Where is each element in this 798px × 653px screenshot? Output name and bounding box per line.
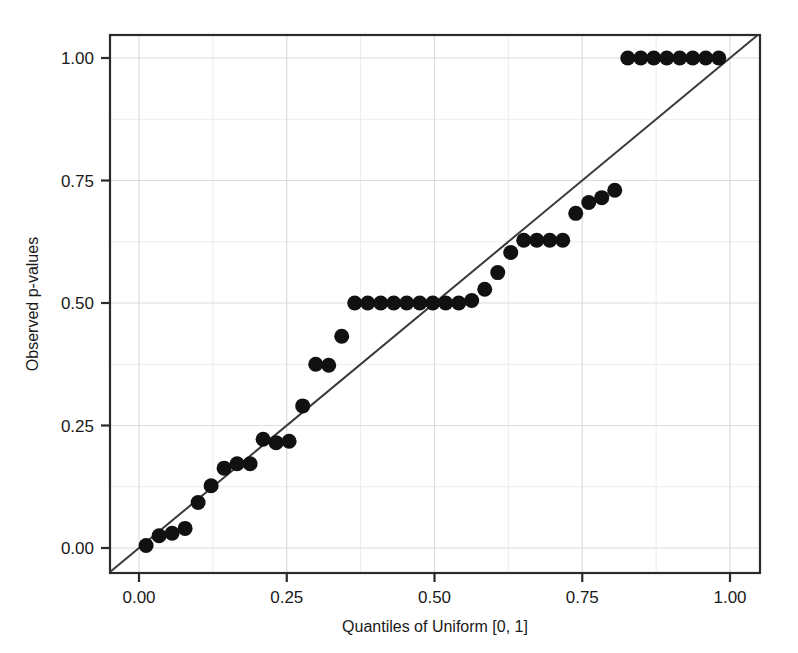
data-point — [282, 434, 297, 449]
data-point — [646, 51, 661, 66]
data-point — [594, 190, 609, 205]
data-point — [464, 293, 479, 308]
data-point — [204, 478, 219, 493]
data-point — [633, 51, 648, 66]
data-point — [360, 296, 375, 311]
data-point — [685, 51, 700, 66]
data-point — [321, 358, 336, 373]
data-point — [399, 296, 414, 311]
y-tick-label: 0.00 — [61, 539, 94, 558]
data-point — [230, 456, 245, 471]
data-point — [373, 296, 388, 311]
qq-plot-figure: 0.000.250.500.751.00 0.000.250.500.751.0… — [0, 0, 798, 653]
x-tick-label: 0.75 — [566, 588, 599, 607]
data-point — [139, 538, 154, 553]
data-point — [347, 296, 362, 311]
data-point — [269, 435, 284, 450]
y-axis-title: Observed p-values — [24, 237, 41, 371]
y-tick-label: 0.75 — [61, 172, 94, 191]
data-point — [490, 265, 505, 280]
data-point — [438, 296, 453, 311]
y-tick-label: 0.50 — [61, 294, 94, 313]
plot-canvas: 0.000.250.500.751.00 0.000.250.500.751.0… — [0, 0, 798, 653]
data-point — [568, 206, 583, 221]
data-point — [555, 233, 570, 248]
data-point — [672, 51, 687, 66]
data-point — [308, 357, 323, 372]
data-point — [217, 461, 232, 476]
data-point — [581, 195, 596, 210]
data-point — [243, 456, 258, 471]
data-point — [425, 296, 440, 311]
data-point — [516, 233, 531, 248]
x-axis-title: Quantiles of Uniform [0, 1] — [342, 618, 528, 635]
data-point — [334, 329, 349, 344]
data-point — [711, 51, 726, 66]
data-point — [178, 521, 193, 536]
x-tick-label: 1.00 — [713, 588, 746, 607]
data-point — [165, 526, 180, 541]
data-point — [295, 398, 310, 413]
data-point — [529, 233, 544, 248]
data-point — [256, 432, 271, 447]
data-point — [386, 296, 401, 311]
data-point — [698, 51, 713, 66]
figure-background — [0, 0, 798, 653]
x-tick-label: 0.00 — [122, 588, 155, 607]
data-point — [451, 296, 466, 311]
data-point — [477, 282, 492, 297]
y-tick-label: 1.00 — [61, 49, 94, 68]
data-point — [659, 51, 674, 66]
y-tick-label: 0.25 — [61, 417, 94, 436]
data-point — [542, 233, 557, 248]
data-point — [412, 296, 427, 311]
data-point — [191, 495, 206, 510]
data-point — [607, 183, 622, 198]
data-point — [620, 51, 635, 66]
x-tick-label: 0.25 — [270, 588, 303, 607]
x-tick-label: 0.50 — [418, 588, 451, 607]
data-point — [152, 528, 167, 543]
data-point — [503, 245, 518, 260]
